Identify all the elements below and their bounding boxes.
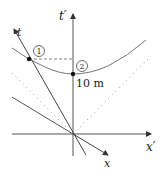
spacetime-diagram: 1 2 10 m t′ t x′ x <box>0 0 165 175</box>
t-prime-axis-label: t′ <box>59 9 67 23</box>
distance-label: 10 m <box>76 77 104 90</box>
light-cone-left <box>12 73 73 134</box>
x-prime-axis-label: x′ <box>146 140 156 154</box>
x-axis-label: x <box>104 157 111 170</box>
event-1-label: 1 <box>34 46 45 57</box>
svg-text:1: 1 <box>36 47 41 56</box>
event-2-label: 2 <box>77 61 88 72</box>
svg-text:2: 2 <box>79 62 84 71</box>
event-1-point <box>27 57 31 61</box>
event-2-point <box>71 72 75 76</box>
x-axis <box>73 134 108 155</box>
t-axis-label: t <box>17 26 22 39</box>
t-axis <box>14 29 86 155</box>
